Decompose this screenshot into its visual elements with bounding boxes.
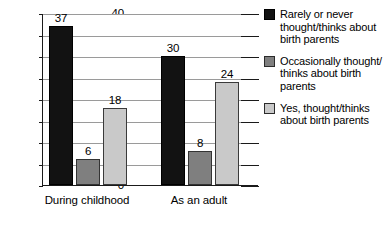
bar-value-label: 8 xyxy=(182,138,218,150)
bar xyxy=(215,82,239,185)
y-axis-tick-mark xyxy=(39,57,43,58)
legend-color-swatch xyxy=(264,103,275,114)
y-axis-tick-mark-right xyxy=(241,165,259,166)
bar-value-label: 18 xyxy=(97,95,133,107)
legend-color-swatch xyxy=(264,56,275,67)
legend-item: Occasionally thought/thinks about birthp… xyxy=(264,55,388,93)
y-axis-tick-mark-right xyxy=(241,57,259,58)
bar-value-label: 24 xyxy=(209,69,245,81)
chart-legend: Rarely or neverthought/thinks aboutbirth… xyxy=(264,8,388,136)
y-axis-tick-mark-right xyxy=(241,100,259,101)
gridline xyxy=(43,57,259,58)
plot-area: 3761830824 xyxy=(42,14,258,186)
y-axis-tick-mark xyxy=(39,100,43,101)
bar-value-label: 37 xyxy=(43,13,79,25)
x-axis-category-label: During childhood xyxy=(27,194,147,206)
bar xyxy=(188,151,212,185)
y-axis-tick-mark xyxy=(39,36,43,37)
bar-chart: 4035302520151050 3761830824 During child… xyxy=(0,0,388,233)
legend-item: Yes, thought/thinksabout birth parents xyxy=(264,102,388,127)
legend-item: Rarely or neverthought/thinks aboutbirth… xyxy=(264,8,388,46)
y-axis-tick-mark-right xyxy=(241,186,259,187)
legend-label: Occasionally thought/thinks about birthp… xyxy=(280,55,382,93)
y-axis-tick-mark xyxy=(39,165,43,166)
legend-label: Rarely or neverthought/thinks aboutbirth… xyxy=(280,8,376,46)
bar xyxy=(161,56,185,185)
y-axis-tick-mark xyxy=(39,143,43,144)
x-axis-category-label: As an adult xyxy=(139,194,259,206)
y-axis-tick-mark xyxy=(39,122,43,123)
gridline xyxy=(43,36,259,37)
y-axis-tick-mark xyxy=(39,186,43,187)
legend-color-swatch xyxy=(264,9,275,20)
y-axis-tick-mark-right xyxy=(241,36,259,37)
bar-value-label: 30 xyxy=(155,43,191,55)
bar xyxy=(76,159,100,185)
y-axis-tick-mark-right xyxy=(241,143,259,144)
y-axis-tick-mark xyxy=(39,79,43,80)
y-axis-tick-mark-right xyxy=(241,122,259,123)
y-axis-tick-mark-right xyxy=(241,14,259,15)
bar xyxy=(49,26,73,185)
bar-value-label: 6 xyxy=(70,146,106,158)
legend-label: Yes, thought/thinksabout birth parents xyxy=(280,102,370,127)
bar xyxy=(103,108,127,185)
